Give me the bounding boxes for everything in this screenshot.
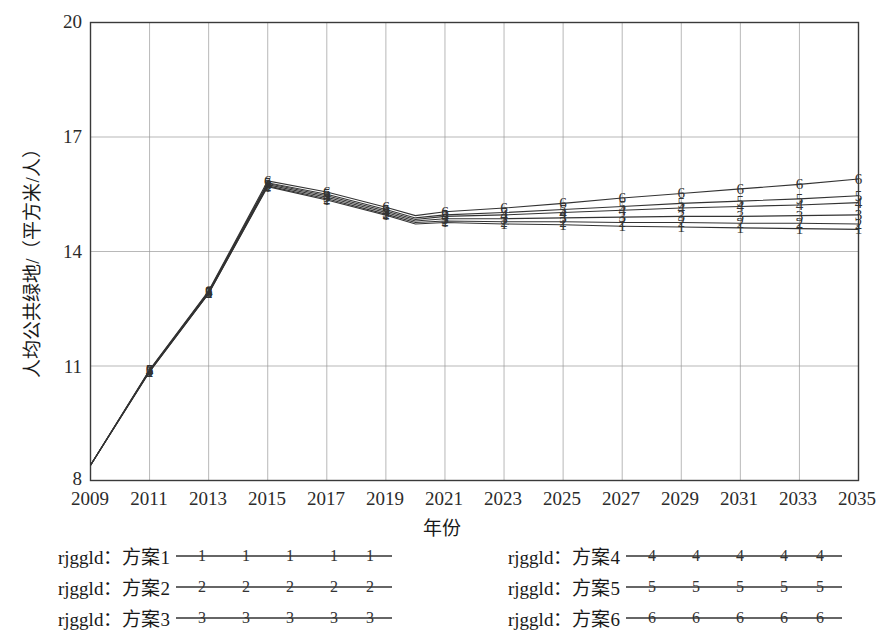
legend-label-fangan1: rjggld：方案1 <box>58 542 174 569</box>
legend-column-left: rjggld：方案1 11111 rjggld：方案2 22222 rjggld… <box>58 540 394 633</box>
svg-text:6: 6 <box>780 609 788 626</box>
series-marker-6: 6 <box>678 185 686 201</box>
svg-text:6: 6 <box>736 609 744 626</box>
legend-label-fangan2: rjggld：方案2 <box>58 573 174 600</box>
svg-text:2: 2 <box>330 578 338 595</box>
svg-text:3: 3 <box>198 609 206 626</box>
series-marker-6: 6 <box>146 362 154 378</box>
svg-text:5: 5 <box>692 578 700 595</box>
chart-page: 人均公共绿地/（平方米/人） 20 17 14 11 8 11111111111… <box>0 0 883 633</box>
svg-text:1: 1 <box>330 547 338 564</box>
legend-label-fangan5: rjggld：方案5 <box>508 573 624 600</box>
legend-item-fangan2[interactable]: rjggld：方案2 22222 <box>58 571 394 602</box>
svg-text:2: 2 <box>366 578 374 595</box>
legend-item-fangan3[interactable]: rjggld：方案3 33333 <box>58 602 394 633</box>
series-marker-6: 6 <box>323 184 331 200</box>
legend-label-fangan4: rjggld：方案4 <box>508 542 624 569</box>
chart-legend: rjggld：方案1 11111 rjggld：方案2 22222 rjggld… <box>0 540 883 633</box>
chart-figure: 人均公共绿地/（平方米/人） 20 17 14 11 8 11111111111… <box>0 0 883 540</box>
legend-item-fangan1[interactable]: rjggld：方案1 11111 <box>58 540 394 571</box>
series-marker-5: 5 <box>796 191 804 207</box>
svg-text:6: 6 <box>692 609 700 626</box>
svg-text:4: 4 <box>692 547 700 564</box>
svg-text:2: 2 <box>242 578 250 595</box>
series-marker-6: 6 <box>737 181 745 197</box>
svg-text:5: 5 <box>780 578 788 595</box>
series-marker-6: 6 <box>855 171 863 187</box>
svg-text:1: 1 <box>198 547 206 564</box>
svg-text:3: 3 <box>242 609 250 626</box>
legend-sample-fangan5: 55555 <box>624 574 844 600</box>
svg-text:4: 4 <box>816 547 824 564</box>
legend-sample-fangan4: 44444 <box>624 543 844 569</box>
series-marker-6: 6 <box>559 195 567 211</box>
series-marker-6: 6 <box>500 200 508 216</box>
svg-text:1: 1 <box>242 547 250 564</box>
x-tick-label-2035: 2035 <box>822 488 883 510</box>
legend-sample-fangan2: 22222 <box>174 574 394 600</box>
svg-text:4: 4 <box>648 547 656 564</box>
svg-text:3: 3 <box>330 609 338 626</box>
plot-canvas: 1111111111111222222222222233333333333334… <box>0 0 883 500</box>
svg-text:4: 4 <box>780 547 788 564</box>
svg-text:5: 5 <box>816 578 824 595</box>
series-marker-6: 6 <box>264 173 272 189</box>
legend-item-fangan5[interactable]: rjggld：方案5 55555 <box>508 571 844 602</box>
legend-sample-fangan6: 66666 <box>624 605 844 631</box>
x-axis-title: 年份 <box>0 513 883 540</box>
svg-text:1: 1 <box>366 547 374 564</box>
svg-text:4: 4 <box>736 547 744 564</box>
gridlines <box>91 23 859 481</box>
svg-text:2: 2 <box>198 578 206 595</box>
legend-item-fangan4[interactable]: rjggld：方案4 44444 <box>508 540 844 571</box>
svg-text:5: 5 <box>736 578 744 595</box>
legend-label-fangan6: rjggld：方案6 <box>508 604 624 631</box>
svg-text:6: 6 <box>648 609 656 626</box>
svg-text:2: 2 <box>286 578 294 595</box>
legend-sample-fangan3: 33333 <box>174 605 394 631</box>
svg-text:3: 3 <box>286 609 294 626</box>
svg-text:6: 6 <box>816 609 824 626</box>
series-marker-5: 5 <box>855 188 863 204</box>
legend-column-right: rjggld：方案4 44444 rjggld：方案5 55555 rjggld… <box>508 540 844 633</box>
series-marker-6: 6 <box>618 190 626 206</box>
svg-text:3: 3 <box>366 609 374 626</box>
series-marker-6: 6 <box>441 204 449 220</box>
series-marker-6: 6 <box>796 176 804 192</box>
legend-item-fangan6[interactable]: rjggld：方案6 66666 <box>508 602 844 633</box>
series-marker-6: 6 <box>205 283 213 299</box>
svg-text:5: 5 <box>648 578 656 595</box>
legend-sample-fangan1: 11111 <box>174 543 394 569</box>
series-marker-6: 6 <box>382 199 390 215</box>
svg-text:1: 1 <box>286 547 294 564</box>
legend-label-fangan3: rjggld：方案3 <box>58 604 174 631</box>
